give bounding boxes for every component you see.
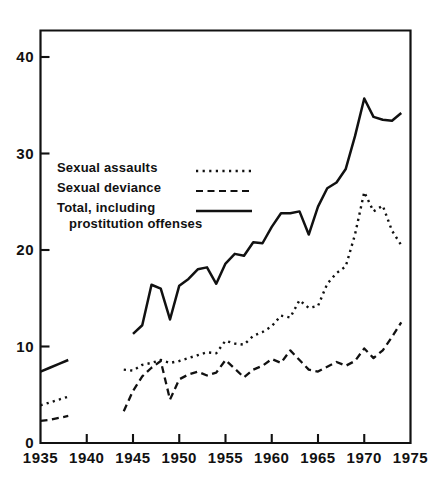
x-tick-label-1955: 1955 xyxy=(200,449,252,466)
y-tick-label-30: 30 xyxy=(0,145,34,162)
y-tick-label-10: 10 xyxy=(0,338,34,355)
legend-item-sexual-deviance: Sexual deviance xyxy=(57,180,257,200)
legend-label-total: Total, including xyxy=(57,200,155,215)
x-tick-label-1950: 1950 xyxy=(153,449,205,466)
series-line-sexual-deviance-seg0 xyxy=(41,416,69,421)
chart-plot-area xyxy=(0,0,441,479)
data-series-group xyxy=(41,99,402,421)
legend-item-sexual-assaults: Sexual assaults xyxy=(57,160,257,180)
series-line-sexual-assaults-seg0 xyxy=(41,397,69,406)
chart-figure: 403020100 193519401945195019551960196519… xyxy=(0,0,441,479)
legend-label-sexual-assaults: Sexual assaults xyxy=(57,160,158,175)
x-tick-label-1965: 1965 xyxy=(292,449,344,466)
axis-ticks xyxy=(41,57,365,443)
series-line-total-including-prostitution-offenses-seg0 xyxy=(41,360,69,372)
y-tick-label-40: 40 xyxy=(0,48,34,65)
legend-swatch-dotted-icon xyxy=(195,169,253,172)
legend-label-total-line2: prostitution offenses xyxy=(69,216,202,231)
y-tick-label-20: 20 xyxy=(0,241,34,258)
legend-item-total: Total, including prostitution offenses xyxy=(57,200,257,234)
legend-label-sexual-deviance: Sexual deviance xyxy=(57,180,161,195)
axes-frame xyxy=(41,31,411,444)
legend-swatch-dashed-icon xyxy=(195,189,253,192)
series-line-sexual-deviance-seg1 xyxy=(124,322,402,411)
x-tick-label-1945: 1945 xyxy=(107,449,159,466)
x-tick-label-1935: 1935 xyxy=(15,449,67,466)
x-tick-label-1960: 1960 xyxy=(246,449,298,466)
x-tick-label-1940: 1940 xyxy=(61,449,113,466)
legend-swatch-solid-icon xyxy=(195,209,253,212)
x-tick-label-1975: 1975 xyxy=(385,449,437,466)
chart-legend: Sexual assaults Sexual deviance Total, i… xyxy=(57,160,257,234)
x-tick-label-1970: 1970 xyxy=(338,449,390,466)
